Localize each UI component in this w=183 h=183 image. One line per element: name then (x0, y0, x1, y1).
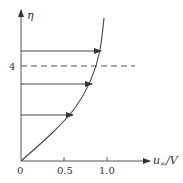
boundary-layer-velocity-profile-diagram: η 4 0 0.5 1.0 u∞/V (0, 0, 183, 183)
x-tick-label-0.5: 0.5 (57, 165, 73, 176)
x-tick-label-1.0: 1.0 (99, 165, 115, 176)
y-axis-label: η (27, 9, 34, 22)
dashed-level-label: 4 (9, 61, 15, 72)
x-axis-label: u∞/V (153, 154, 179, 168)
velocity-profile-curve (21, 18, 104, 161)
x-tick-label-0: 0 (17, 165, 23, 176)
